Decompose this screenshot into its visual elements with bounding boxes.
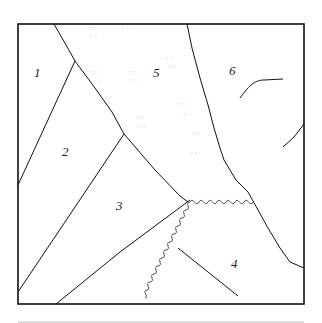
- boundary-1-5-top: [54, 24, 75, 61]
- region-label-6: 6: [229, 63, 236, 78]
- stroke-right-edge: [283, 124, 304, 147]
- svg-text::: ::: :: ::: [136, 114, 143, 120]
- svg-text::: ::: :: ::: [128, 69, 135, 75]
- boundary-1-2: [18, 61, 75, 185]
- region-diagram: :: :: :: :: :: :: :: :: :: :: :: :: :: :…: [0, 0, 322, 323]
- boundary-3-4-lower: [56, 200, 190, 304]
- svg-text::: ::: :: ::: [90, 69, 97, 75]
- region-label-1: 1: [34, 65, 41, 80]
- stroke-region-4: [178, 248, 238, 296]
- svg-text::: ::: :: ::: [165, 55, 172, 61]
- svg-text::: ::: :: ::: [168, 63, 175, 69]
- stipple-marks: :: :: :: :: :: :: :: :: :: :: :: :: :: :…: [88, 25, 199, 164]
- region-label-2: 2: [62, 144, 69, 159]
- svg-text::: ::: :: ::: [178, 101, 185, 107]
- svg-text::: ::: :: ::: [93, 78, 100, 84]
- svg-text::: ::: :: ::: [88, 25, 95, 31]
- svg-text::: ::: :: ::: [122, 25, 129, 31]
- svg-text::: ::: :: ::: [138, 123, 145, 129]
- svg-text::: ::: :: ::: [130, 77, 137, 83]
- svg-text::: ::: :: ::: [90, 32, 97, 38]
- diagram-frame: [18, 24, 304, 304]
- region-label-3: 3: [115, 198, 123, 213]
- svg-text:::: ::: [155, 158, 158, 164]
- region-label-4: 4: [231, 256, 238, 271]
- boundary-2-3: [18, 134, 124, 292]
- svg-text::: ::: :: ::: [190, 150, 197, 156]
- coil-boundary: [145, 200, 253, 298]
- region-label-5: 5: [153, 65, 160, 80]
- svg-text::: ::: :: ::: [180, 111, 187, 117]
- svg-text::: ::: :: ::: [192, 130, 199, 136]
- stroke-region-6: [240, 79, 283, 98]
- boundary-5-6-upper: [187, 24, 224, 160]
- boundary-6-4: [224, 160, 304, 268]
